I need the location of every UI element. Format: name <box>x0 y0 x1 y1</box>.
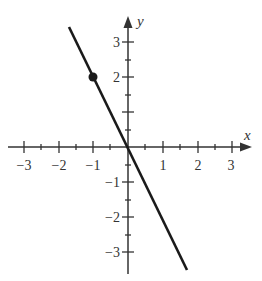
y-axis <box>122 16 134 274</box>
x-axis-label: x <box>243 127 251 143</box>
x-axis-arrow-icon <box>240 143 252 152</box>
x-tick-label: 3 <box>228 158 235 173</box>
y-tick-label: −3 <box>105 245 120 260</box>
y-tick-label: −1 <box>105 175 120 190</box>
y-axis-label: y <box>135 13 144 29</box>
y-tick-label: −2 <box>105 210 120 225</box>
point-marker-neg1-2 <box>89 73 98 82</box>
x-tick-label: 2 <box>195 158 202 173</box>
x-tick-label: −3 <box>17 158 32 173</box>
graph: −3 −2 −1 1 2 3 3 2 −1 −2 −3 y x <box>0 0 262 281</box>
x-tick-label: 1 <box>160 158 167 173</box>
x-tick-label: −1 <box>86 158 101 173</box>
y-tick-label: 2 <box>113 70 120 85</box>
x-tick-label: −2 <box>52 158 67 173</box>
y-axis-arrow-icon <box>124 16 133 28</box>
y-tick-label: 3 <box>113 35 120 50</box>
